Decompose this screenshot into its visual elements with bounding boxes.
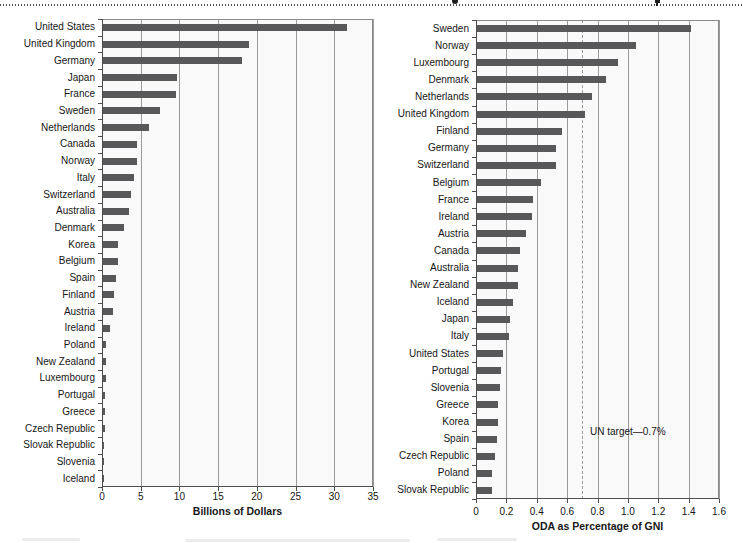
category-label: Spain: [0, 433, 469, 445]
category-label: Australia: [0, 262, 469, 274]
category-label: Portugal: [0, 365, 469, 377]
category-label: Korea: [0, 416, 469, 428]
bar: [477, 213, 532, 220]
page-crop-artifact: [22, 538, 80, 541]
un-target-line: [582, 20, 583, 499]
category-label: Luxembourg: [0, 57, 469, 69]
gridline: [537, 20, 538, 499]
category-label: France: [0, 194, 469, 206]
bar: [477, 128, 562, 135]
bar: [477, 196, 533, 203]
bar: [477, 162, 556, 169]
x-axis-tick: [537, 499, 538, 503]
x-axis-title-oda-percentage-gni: ODA as Percentage of GNI: [476, 520, 719, 532]
x-axis-tick: [567, 499, 568, 503]
bar: [477, 247, 520, 254]
category-label: United States: [0, 348, 469, 360]
category-label: United Kingdom: [0, 108, 469, 120]
bar: [477, 145, 556, 152]
bar: [477, 333, 509, 340]
category-label: Italy: [0, 330, 469, 342]
bar: [477, 487, 492, 494]
x-axis-tick: [506, 499, 507, 503]
bar: [477, 93, 592, 100]
x-axis-tick: [658, 499, 659, 503]
category-label: Germany: [0, 142, 469, 154]
category-label: New Zealand: [0, 279, 469, 291]
category-label: Ireland: [0, 211, 469, 223]
category-label: Japan: [0, 313, 469, 325]
bar: [477, 76, 606, 83]
bar: [477, 436, 497, 443]
category-label: Iceland: [0, 296, 469, 308]
x-axis-tick: [598, 499, 599, 503]
bar: [477, 111, 585, 118]
bar: [477, 350, 503, 357]
bar: [477, 316, 510, 323]
oda-percent-gni-chart: SwedenNorwayLuxembourgDenmarkNetherlands…: [0, 0, 743, 543]
category-label: Norway: [0, 40, 469, 52]
bar: [477, 384, 500, 391]
bar: [477, 419, 498, 426]
gridline: [506, 20, 507, 499]
bar: [477, 25, 691, 32]
gridline: [719, 20, 720, 499]
page-crop-artifact: [185, 539, 410, 542]
x-axis-tick: [689, 499, 690, 503]
category-label: Czech Republic: [0, 450, 469, 462]
bar: [477, 59, 618, 66]
bar: [477, 42, 636, 49]
category-label: Finland: [0, 125, 469, 137]
category-label: Sweden: [0, 23, 469, 35]
un-target-annotation: UN target—0.7%: [590, 426, 666, 438]
x-axis-title-billions-of-dollars: Billions of Dollars: [102, 505, 373, 517]
bar: [477, 282, 518, 289]
x-tick-label: 1.6: [697, 506, 741, 518]
bar: [477, 265, 518, 272]
category-label: Austria: [0, 228, 469, 240]
category-label: Netherlands: [0, 91, 469, 103]
bar: [477, 179, 541, 186]
category-label: Poland: [0, 467, 469, 479]
category-label: Slovenia: [0, 382, 469, 394]
x-axis-tick: [476, 499, 477, 503]
category-label: Belgium: [0, 177, 469, 189]
y-axis-line: [476, 20, 477, 499]
page: United StatesUnited KingdomGermanyJapanF…: [0, 0, 743, 543]
page-crop-artifact: [437, 538, 517, 541]
gridline: [567, 20, 568, 499]
bar: [477, 453, 495, 460]
bar: [477, 470, 492, 477]
x-axis-tick: [628, 499, 629, 503]
category-label: Denmark: [0, 74, 469, 86]
bar: [477, 367, 501, 374]
category-label: Slovak Republic: [0, 484, 469, 496]
bar: [477, 299, 513, 306]
category-label: Switzerland: [0, 159, 469, 171]
category-label: Canada: [0, 245, 469, 257]
gridline: [689, 20, 690, 499]
bar: [477, 230, 526, 237]
bar: [477, 401, 498, 408]
x-axis-tick: [719, 499, 720, 503]
category-label: Greece: [0, 399, 469, 411]
